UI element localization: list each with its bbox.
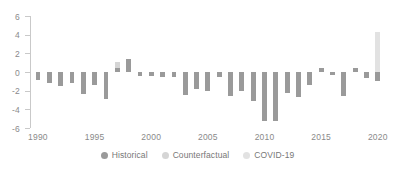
- y-axis-tick-label: 2: [15, 49, 20, 59]
- chart-bar: [58, 72, 63, 86]
- y-axis-tick-label: -6: [12, 124, 20, 134]
- chart-bar: [205, 72, 210, 91]
- chart-bar: [353, 68, 358, 72]
- chart-bar: [183, 72, 188, 95]
- y-axis-tick-label: -4: [12, 105, 20, 115]
- legend-label: Counterfactual: [173, 150, 230, 160]
- y-axis-tick-label: 0: [15, 68, 20, 78]
- chart-bar: [138, 72, 143, 76]
- chart-bar: [364, 72, 369, 78]
- chart-bar: [341, 72, 346, 96]
- y-axis-tick-mark: 6: [25, 16, 30, 17]
- legend-item[interactable]: Counterfactual: [162, 150, 230, 160]
- chart-bar: [160, 72, 165, 77]
- y-axis-tick-mark: -6: [25, 128, 30, 129]
- y-axis-tick-label: 4: [15, 30, 20, 40]
- chart-container: 6420-2-4-6 1990199520002005201020152020 …: [0, 0, 395, 170]
- chart-bar: [36, 72, 41, 80]
- legend-item[interactable]: Historical: [101, 150, 148, 160]
- x-axis-tick-label: 1995: [85, 132, 105, 142]
- y-axis-tick-mark: 0: [25, 72, 30, 73]
- chart-bar: [251, 72, 256, 101]
- legend-item[interactable]: COVID-19: [243, 150, 294, 160]
- x-axis-tick-label: 2020: [368, 132, 388, 142]
- chart-bar: [81, 72, 86, 94]
- chart-bar: [92, 72, 97, 85]
- legend-swatch-icon: [243, 152, 250, 159]
- x-axis-tick-label: 2015: [311, 132, 331, 142]
- x-axis-tick-label: 1990: [28, 132, 48, 142]
- chart-bar: [307, 72, 312, 85]
- chart-bar: [228, 72, 233, 96]
- legend-swatch-icon: [162, 152, 169, 159]
- chart-bar: [115, 68, 120, 72]
- chart-bar: [330, 72, 335, 75]
- y-axis-tick-mark: -2: [25, 91, 30, 92]
- chart-bar: [239, 72, 244, 91]
- chart-bar: [47, 72, 52, 83]
- chart-bar: [70, 72, 75, 83]
- x-axis-tick-label: 2010: [255, 132, 275, 142]
- y-axis-tick-mark: 2: [25, 53, 30, 54]
- chart-bar: [375, 72, 380, 81]
- y-axis-tick-mark: 4: [25, 35, 30, 36]
- chart-legend: HistoricalCounterfactualCOVID-19: [0, 150, 395, 160]
- chart-bar: [172, 72, 177, 77]
- chart-bar: [126, 59, 131, 72]
- chart-bar: [319, 68, 324, 72]
- legend-swatch-icon: [101, 152, 108, 159]
- chart-bar: [194, 72, 199, 89]
- chart-bar: [285, 72, 290, 93]
- y-axis-tick-mark: -4: [25, 109, 30, 110]
- chart-bar: [217, 72, 222, 77]
- legend-label: Historical: [112, 150, 148, 160]
- x-axis-tick-label: 2000: [141, 132, 161, 142]
- chart-bar: [262, 72, 267, 121]
- y-axis-tick-label: 6: [15, 12, 20, 22]
- legend-label: COVID-19: [254, 150, 294, 160]
- chart-bar: [375, 32, 380, 72]
- chart-bar: [296, 72, 301, 97]
- x-axis-tick-label: 2005: [198, 132, 218, 142]
- chart-bar: [104, 72, 109, 99]
- chart-bar: [273, 72, 278, 121]
- plot-area: [30, 16, 388, 128]
- y-axis-tick-label: -2: [12, 86, 20, 96]
- chart-bar: [149, 72, 154, 76]
